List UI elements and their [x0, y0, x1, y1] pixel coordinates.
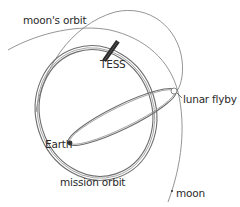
moons-orbit-label: moon's orbit [23, 15, 86, 26]
tess-label: TESS [100, 59, 126, 70]
moon-dot-icon [171, 190, 173, 192]
moon-label: moon [176, 188, 205, 199]
tess-orbit-diagram: moon's orbit TESS lunar flyby Earth miss… [0, 0, 240, 207]
mission-orbit-label: mission orbit [60, 177, 125, 188]
lunar-flyby-marker-icon [171, 88, 177, 94]
earth-label: Earth [45, 139, 72, 150]
lunar-flyby-label: lunar flyby [183, 94, 237, 105]
phasing-loop [63, 80, 181, 154]
